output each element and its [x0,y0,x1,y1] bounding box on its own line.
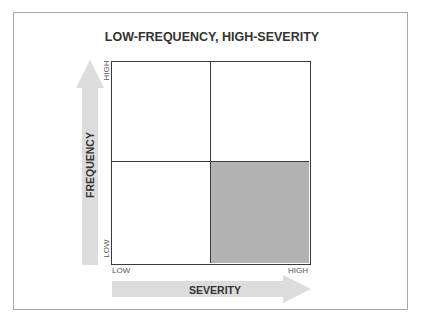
y-axis-title: FREQUENCY [83,125,97,205]
x-axis-title: SEVERITY [175,283,255,297]
quadrant-high-frequency-low-severity [112,62,211,162]
x-axis-high-label: HIGH [288,266,308,275]
quadrant-low-frequency-high-severity-highlighted [211,162,309,263]
y-axis-low-label: LOW [102,237,111,261]
quadrant-low-frequency-low-severity [112,162,211,263]
risk-matrix-grid [111,61,311,265]
y-axis-high-label: HIGH [102,59,111,83]
quadrant-high-frequency-high-severity [211,62,309,162]
x-axis-low-label: LOW [112,266,130,275]
